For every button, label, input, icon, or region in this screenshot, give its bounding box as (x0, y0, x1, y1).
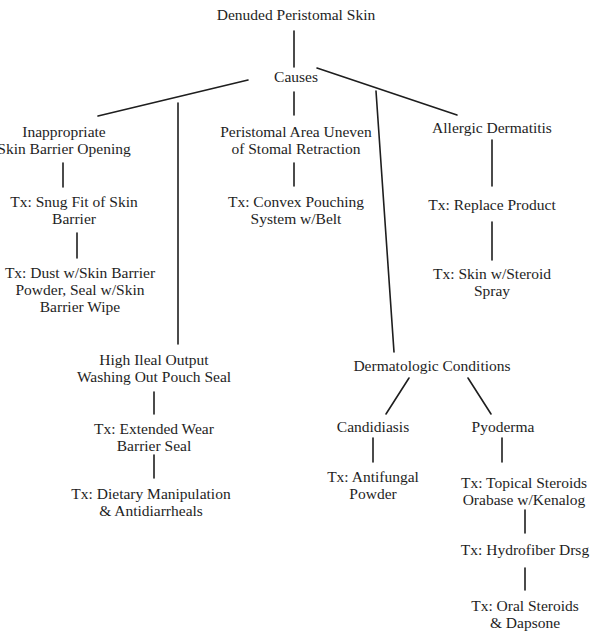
tx-replace-product: Tx: Replace Product (428, 196, 555, 213)
cause-line-2: of Stomal Retraction (220, 140, 372, 157)
tx-topical-steroids: Tx: Topical Steroids Orabase w/Kenalog (461, 474, 587, 508)
edge-causes-inappropriate (98, 80, 248, 116)
cause-dermatologic-conditions: Dermatologic Conditions (353, 357, 510, 374)
tx-hydrofiber-drsg: Tx: Hydrofiber Drsg (461, 541, 589, 558)
tx-line-2: Barrier Seal (94, 437, 214, 454)
tx-dust-seal: Tx: Dust w/Skin Barrier Powder, Seal w/S… (5, 264, 155, 315)
edge-derm-candidiasis (386, 378, 409, 414)
tx-line-2: Barrier (10, 210, 137, 227)
cause-inappropriate-opening: Inappropriate Skin Barrier Opening (0, 123, 131, 157)
sub-label: Candidiasis (337, 418, 409, 435)
tx-line-1: Tx: Dust w/Skin Barrier (5, 264, 155, 281)
cause-line-1: Inappropriate (0, 123, 131, 140)
tx-line-3: Barrier Wipe (5, 298, 155, 315)
tx-line-1: Tx: Oral Steroids (471, 597, 579, 614)
cause-line-1: Allergic Dermatitis (432, 119, 552, 136)
tx-extended-wear: Tx: Extended Wear Barrier Seal (94, 420, 214, 454)
sub-label: Pyoderma (472, 418, 535, 435)
causes-label: Causes (274, 68, 318, 85)
cause-line-1: Dermatologic Conditions (353, 357, 510, 374)
edge-derm-pyoderma (468, 378, 491, 414)
cause-uneven-area: Peristomal Area Uneven of Stomal Retract… (220, 123, 372, 157)
tx-line-1: Tx: Topical Steroids (461, 474, 587, 491)
tx-oral-steroids: Tx: Oral Steroids & Dapsone (471, 597, 579, 631)
tx-antifungal-powder: Tx: Antifungal Powder (327, 468, 419, 502)
tx-line-1: Tx: Extended Wear (94, 420, 214, 437)
causes-node: Causes (274, 68, 318, 85)
cause-high-ileal-output: High Ileal Output Washing Out Pouch Seal (77, 351, 231, 385)
root-node: Denuded Peristomal Skin (217, 6, 375, 23)
root-label: Denuded Peristomal Skin (217, 6, 375, 23)
tx-line-1: Tx: Antifungal (327, 468, 419, 485)
tx-line-2: Powder (327, 485, 419, 502)
cause-line-2: Skin Barrier Opening (0, 140, 131, 157)
cause-line-1: High Ileal Output (77, 351, 231, 368)
tx-line-1: Tx: Convex Pouching (228, 193, 364, 210)
tx-steroid-spray: Tx: Skin w/Steroid Spray (433, 265, 551, 299)
tx-line-1: Tx: Replace Product (428, 196, 555, 213)
cause-line-1: Peristomal Area Uneven (220, 123, 372, 140)
cause-line-2: Washing Out Pouch Seal (77, 368, 231, 385)
tx-line-2: & Dapsone (471, 614, 579, 631)
tx-line-2: System w/Belt (228, 210, 364, 227)
cause-allergic-dermatitis: Allergic Dermatitis (432, 119, 552, 136)
sub-pyoderma: Pyoderma (472, 418, 535, 435)
tx-line-1: Tx: Hydrofiber Drsg (461, 541, 589, 558)
edge-causes-allergic (317, 68, 457, 115)
edge-causes-dermatologic (376, 91, 394, 352)
tx-snug-fit: Tx: Snug Fit of Skin Barrier (10, 193, 137, 227)
sub-candidiasis: Candidiasis (337, 418, 409, 435)
tx-line-1: Tx: Snug Fit of Skin (10, 193, 137, 210)
tx-convex-pouching: Tx: Convex Pouching System w/Belt (228, 193, 364, 227)
tx-dietary-manipulation: Tx: Dietary Manipulation & Antidiarrheal… (71, 485, 230, 519)
tx-line-2: & Antidiarrheals (71, 502, 230, 519)
tx-line-2: Spray (433, 282, 551, 299)
tx-line-1: Tx: Dietary Manipulation (71, 485, 230, 502)
tx-line-1: Tx: Skin w/Steroid (433, 265, 551, 282)
tx-line-2: Powder, Seal w/Skin (5, 281, 155, 298)
tx-line-2: Orabase w/Kenalog (461, 491, 587, 508)
